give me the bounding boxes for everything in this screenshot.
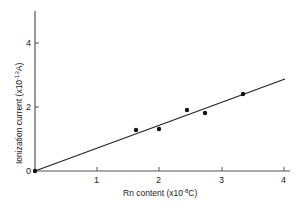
x-tick-label: 2 <box>156 175 161 185</box>
data-point <box>185 108 189 112</box>
x-ticks: 1 2 3 4 <box>94 167 286 185</box>
x-axis-label-main: Rn content (x10 <box>123 188 183 198</box>
fit-line <box>35 79 285 171</box>
data-point <box>241 92 245 96</box>
y-ticks: 4 2 0 <box>26 38 39 176</box>
y-tick-label: 0 <box>26 166 31 176</box>
x-axis-label: Rn content (x10-8C) <box>123 188 197 198</box>
data-point <box>33 169 37 173</box>
x-tick-label: 1 <box>94 175 99 185</box>
y-axis-label-main: Ionization current (x10 <box>14 80 24 164</box>
y-tick-label: 2 <box>26 102 31 112</box>
y-axis-label: Ionization current (x10-13A) <box>14 63 24 164</box>
y-tick-label: 4 <box>26 38 31 48</box>
data-point <box>203 111 207 115</box>
chart: 4 2 0 1 2 3 4 Rn content (x10-8C) Ioniza… <box>0 0 304 208</box>
x-axis-label-tail: C) <box>188 188 197 198</box>
data-point <box>157 127 161 131</box>
x-tick-label: 4 <box>281 175 286 185</box>
x-tick-label: 3 <box>219 175 224 185</box>
y-axis-label-tail: A) <box>14 63 24 72</box>
data-point <box>134 128 138 132</box>
